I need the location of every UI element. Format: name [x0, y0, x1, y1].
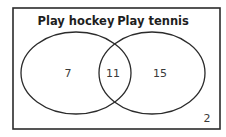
- tennis-only-value: 15: [153, 67, 167, 80]
- intersection-value: 11: [106, 67, 120, 80]
- hockey-only-value: 7: [65, 67, 72, 80]
- hockey-set-label: Play hockey: [38, 14, 115, 28]
- venn-diagram: Play hockey Play tennis 7 11 15 2: [0, 0, 226, 137]
- tennis-set-label: Play tennis: [117, 14, 189, 28]
- neither-value: 2: [204, 112, 211, 125]
